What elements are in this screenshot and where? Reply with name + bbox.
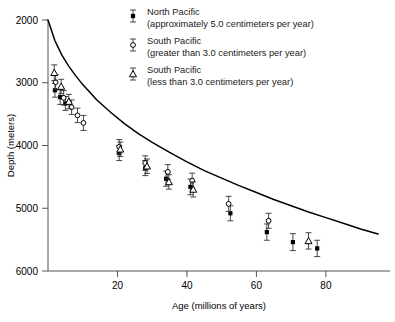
x-tick-label: 80 — [320, 280, 332, 291]
y-tick-label: 3000 — [16, 77, 39, 88]
data-point — [52, 83, 58, 97]
x-tick-label: 20 — [112, 280, 124, 291]
y-tick-label: 4000 — [16, 140, 39, 151]
series-1 — [52, 83, 320, 256]
marker-open-circle — [75, 113, 80, 118]
marker-open-circle — [266, 218, 271, 223]
marker-filled-square — [131, 14, 135, 18]
series-2 — [53, 75, 272, 229]
data-point — [290, 234, 296, 251]
legend-item-1: North Pacific(approximately 5.0 centimet… — [130, 7, 314, 29]
marker-filled-square — [315, 246, 319, 250]
y-axis-title: Depth (meters) — [5, 114, 16, 177]
legend-label-primary: North Pacific — [147, 7, 200, 17]
y-axis-ticks: 20003000400050006000 — [16, 15, 48, 277]
chart-figure: 20003000400050006000 20406080 Age (milli… — [0, 0, 395, 322]
x-tick-label: 60 — [251, 280, 263, 291]
data-point — [53, 75, 59, 90]
marker-filled-square — [53, 88, 57, 92]
marker-open-triangle — [51, 69, 58, 75]
y-tick-label: 6000 — [16, 266, 39, 277]
legend-label-qualifier: (less than 3.0 centimeters per year) — [147, 77, 293, 87]
x-axis-ticks: 20406080 — [112, 271, 332, 291]
legend-label-qualifier: (greater than 3.0 centimeters per year) — [147, 48, 306, 58]
data-point — [305, 233, 312, 249]
legend-label-qualifier: (approximately 5.0 centimeters per year) — [147, 19, 314, 29]
legend-label-primary: South Pacific — [147, 36, 202, 46]
depth-age-scatter-plot: 20003000400050006000 20406080 Age (milli… — [0, 0, 395, 322]
data-point — [51, 65, 58, 81]
x-axis-title: Age (millions of years) — [172, 300, 266, 311]
data-point — [314, 240, 320, 256]
marker-open-triangle — [130, 71, 137, 77]
marker-open-circle — [165, 169, 170, 174]
marker-open-circle — [131, 43, 136, 48]
marker-open-circle — [226, 201, 231, 206]
y-tick-label: 2000 — [16, 15, 39, 26]
marker-open-circle — [81, 121, 86, 126]
legend-item-3: South Pacific(less than 3.0 centimeters … — [130, 65, 294, 87]
data-point — [80, 115, 86, 130]
marker-filled-square — [265, 230, 269, 234]
marker-open-circle — [61, 95, 66, 100]
chart-legend: North Pacific(approximately 5.0 centimet… — [130, 7, 314, 87]
legend-label-primary: South Pacific — [147, 65, 202, 75]
marker-open-triangle — [305, 237, 312, 243]
marker-open-triangle — [58, 83, 65, 89]
y-tick-label: 5000 — [16, 203, 39, 214]
x-tick-label: 40 — [181, 280, 193, 291]
legend-item-2: South Pacific(greater than 3.0 centimete… — [130, 36, 306, 58]
data-point — [75, 108, 81, 122]
marker-filled-square — [291, 240, 295, 244]
